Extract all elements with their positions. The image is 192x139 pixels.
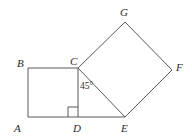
segment-GF [125, 22, 172, 70]
vertex-label-E: E [121, 123, 128, 134]
geometry-figure: A B C D E F G 45° [0, 0, 192, 139]
segment-CE [78, 68, 125, 117]
vertex-label-B: B [17, 58, 24, 69]
vertex-label-A: A [14, 123, 21, 134]
vertex-label-G: G [120, 7, 128, 18]
vertex-label-C: C [70, 56, 77, 67]
vertex-label-D: D [73, 123, 81, 134]
geometry-canvas [0, 0, 192, 139]
segment-FE [125, 70, 172, 117]
right-angle-mark-D [68, 107, 78, 117]
segment-CG [78, 22, 125, 68]
angle-label-45: 45° [80, 82, 93, 92]
vertex-label-F: F [176, 62, 183, 73]
